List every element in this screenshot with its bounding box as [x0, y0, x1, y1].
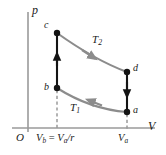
tick-label-va: Va [118, 133, 128, 144]
point-marker-c [54, 30, 60, 36]
tick-label-va-sub: a [124, 136, 128, 145]
tick-label-vb-equals: = [46, 132, 57, 143]
isotherm-label-t2: T2 [92, 34, 102, 47]
p-axis-label: p [32, 4, 38, 16]
point-marker-a [124, 109, 130, 115]
tick-label-vb: Vb = Va/r [36, 133, 74, 144]
isotherm-label-t2-sub: 2 [98, 38, 102, 47]
point-label-d: d [133, 63, 138, 73]
v-axis-label: V [148, 120, 155, 132]
point-marker-d [124, 69, 130, 75]
isotherm-label-t1: T1 [70, 102, 80, 115]
tick-label-vb-divisor: /r [67, 132, 74, 143]
origin-label: O [16, 132, 24, 143]
point-label-a: a [133, 105, 138, 115]
isotherm-label-t1-sub: 1 [76, 106, 80, 115]
isotherm-t2-arrow [82, 50, 95, 59]
point-label-b: b [44, 82, 49, 92]
point-label-c: c [44, 20, 48, 30]
point-marker-b [54, 85, 60, 91]
diagram-canvas [0, 0, 166, 155]
isotherm-t1-curve [57, 88, 127, 112]
pv-diagram-figure: p V O c b d a T2 T1 Vb = Va/r Va [0, 0, 166, 155]
